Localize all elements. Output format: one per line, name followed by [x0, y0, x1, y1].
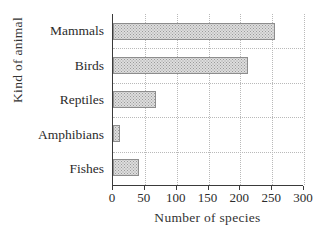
bar-row — [113, 117, 303, 151]
bar — [113, 91, 156, 108]
plot-area — [112, 14, 303, 186]
x-axis-tick-label: 100 — [166, 190, 186, 206]
x-axis-tick-label: 200 — [230, 190, 250, 206]
y-axis-category-label-cell: Amphibians — [16, 117, 109, 151]
x-axis-tick-label: 300 — [293, 190, 313, 206]
y-axis-category-label-cell: Reptiles — [16, 83, 109, 117]
bar — [113, 23, 275, 40]
bar-row — [113, 151, 303, 185]
bar — [113, 159, 139, 176]
x-axis-tick-labels: 050100150200250300 — [112, 190, 303, 208]
bar-chart-figure: Kind of animal MammalsBirdsReptilesAmphi… — [0, 0, 318, 244]
x-axis-tick-label: 0 — [109, 190, 116, 206]
y-axis-category-label: Amphibians — [38, 128, 104, 142]
vertical-gridline — [304, 14, 305, 185]
bar — [113, 125, 120, 142]
y-axis-category-label: Mammals — [50, 24, 104, 38]
bar-row — [113, 14, 303, 48]
y-axis-category-label-cell: Birds — [16, 48, 109, 82]
bars-container — [113, 14, 303, 185]
bar-row — [113, 82, 303, 116]
bar-row — [113, 48, 303, 82]
y-axis-category-label: Fishes — [69, 162, 104, 176]
y-axis-category-label: Reptiles — [60, 93, 104, 107]
y-axis-category-labels: MammalsBirdsReptilesAmphibiansFishes — [16, 14, 109, 186]
x-axis-tick-label: 250 — [261, 190, 281, 206]
x-axis-tick-label: 50 — [137, 190, 150, 206]
y-axis-category-label: Birds — [75, 59, 104, 73]
y-axis-category-label-cell: Fishes — [16, 152, 109, 186]
x-axis-title: Number of species — [112, 210, 303, 226]
x-axis-tick-label: 150 — [198, 190, 218, 206]
y-axis-category-label-cell: Mammals — [16, 14, 109, 48]
bar — [113, 57, 248, 74]
